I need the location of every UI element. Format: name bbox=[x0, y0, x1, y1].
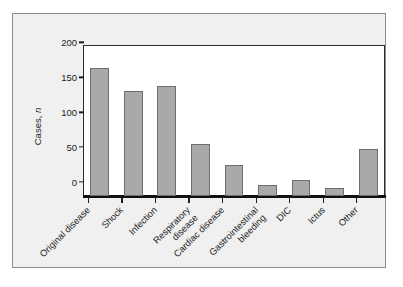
bar-series bbox=[83, 45, 385, 196]
y-tick-label: 0 bbox=[72, 177, 77, 188]
figure: 050100150200 Cases, n Original diseaseSh… bbox=[0, 0, 403, 287]
x-tick-mark bbox=[188, 198, 189, 203]
y-axis-title: Cases, n bbox=[32, 82, 43, 172]
y-axis-title-italic: n bbox=[32, 108, 43, 113]
bar bbox=[258, 185, 277, 196]
x-tick-mark bbox=[155, 198, 156, 203]
bar bbox=[359, 149, 378, 196]
bar bbox=[90, 68, 109, 196]
bar bbox=[325, 188, 344, 196]
bar bbox=[157, 86, 176, 196]
x-tick-mark bbox=[222, 198, 223, 203]
chart-panel: 050100150200 Cases, n Original diseaseSh… bbox=[12, 13, 386, 268]
x-tick-mark bbox=[356, 198, 357, 203]
y-tick-label: 200 bbox=[61, 37, 77, 48]
x-tick-mark bbox=[88, 198, 89, 203]
x-tick-mark bbox=[256, 198, 257, 203]
y-tick-label: 150 bbox=[61, 72, 77, 83]
y-tick-label: 50 bbox=[66, 142, 77, 153]
x-tick-mark bbox=[289, 198, 290, 203]
bar bbox=[191, 144, 210, 196]
bar bbox=[124, 91, 143, 196]
y-tick-mark bbox=[79, 42, 84, 43]
y-tick-label: 100 bbox=[61, 107, 77, 118]
x-tick-mark bbox=[323, 198, 324, 203]
y-axis-title-text: Cases, bbox=[32, 116, 43, 146]
bar bbox=[292, 180, 311, 196]
bar bbox=[225, 165, 244, 196]
x-tick-mark bbox=[121, 198, 122, 203]
